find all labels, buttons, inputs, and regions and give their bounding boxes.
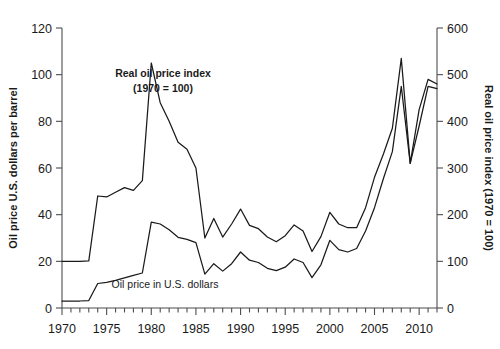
x-axis-tick-label: 1970 (48, 322, 76, 336)
real-index-annotation-line2: (1970 = 100) (133, 82, 193, 94)
x-axis-tick-label: 2005 (361, 322, 389, 336)
oil-price-chart-figure: 020406080100120 0100200300400500600 1970… (0, 0, 500, 349)
left-axis-tick-label: 120 (31, 22, 52, 36)
left-axis-tick-label: 60 (38, 162, 52, 176)
right-axis-tick-label: 600 (447, 22, 468, 36)
right-axis-tick-label: 500 (447, 68, 468, 82)
right-axis-tick-label: 400 (447, 115, 468, 129)
left-axis-tick-label: 100 (31, 68, 52, 82)
x-axis-tick-label: 1985 (182, 322, 210, 336)
left-axis-title: Oil price U.S. dollars per barrel (7, 87, 19, 248)
left-axis-tick-label: 20 (38, 255, 52, 269)
left-axis-tick-label: 80 (38, 115, 52, 129)
x-axis-tick-label: 1995 (271, 322, 299, 336)
right-axis-tick-label: 200 (447, 208, 468, 222)
x-axis-tick-label: 1990 (227, 322, 255, 336)
right-axis-tick-label: 0 (447, 302, 454, 316)
chart-background (0, 0, 500, 349)
right-axis-tick-label: 300 (447, 162, 468, 176)
right-axis-tick-label: 100 (447, 255, 468, 269)
left-axis-tick-label: 40 (38, 208, 52, 222)
x-axis-tick-label: 2000 (316, 322, 344, 336)
nominal-price-annotation: Oil price in U.S. dollars (112, 278, 219, 290)
x-axis-tick-label: 2010 (405, 322, 433, 336)
x-axis-tick-label: 1980 (137, 322, 165, 336)
x-axis-tick-label: 1975 (93, 322, 121, 336)
right-axis-title: Real oil price index (1970 = 100) (483, 85, 495, 251)
left-axis-tick-label: 0 (45, 302, 52, 316)
chart-canvas: 020406080100120 0100200300400500600 1970… (0, 0, 500, 349)
real-index-annotation: Real oil price index (115, 67, 211, 79)
